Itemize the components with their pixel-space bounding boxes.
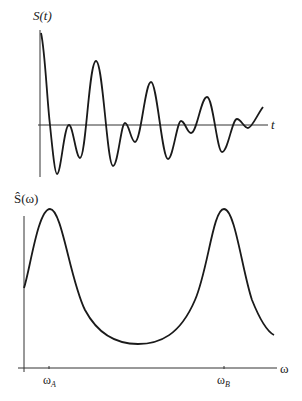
bottom-x-label: ω [280,361,289,376]
figure: S(t) t Ŝ(ω) ω ωA ωB [0,0,302,401]
top-x-label: t [271,117,275,132]
omega-a-label: ωA [43,373,56,389]
omega-b-label: ωB [217,373,230,389]
time-signal-plot: S(t) t [33,8,275,177]
spectrum-plot: Ŝ(ω) ω ωA ωB [14,191,289,389]
bottom-y-label: Ŝ(ω) [14,191,38,206]
top-y-label: S(t) [33,8,52,23]
spectrum-curve [24,209,274,344]
time-signal-curve [41,33,263,174]
